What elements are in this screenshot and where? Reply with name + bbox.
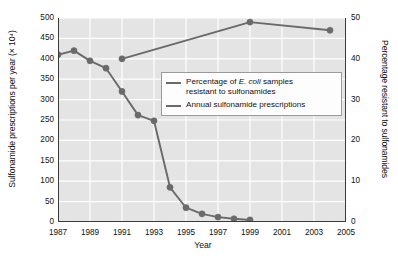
- chart-legend: Percentage of E. coli samples resistant …: [161, 72, 342, 116]
- data-point-marker: [151, 118, 157, 124]
- legend-label-resistance-pre: Percentage of: [186, 77, 239, 86]
- y-axis-right-tick-label: 30: [351, 95, 381, 104]
- chart-container: Sulfonamide prescriptions per year (× 10…: [0, 0, 398, 261]
- y-axis-left-tick-label: 200: [24, 135, 54, 144]
- plot-area: [58, 18, 346, 222]
- data-point-marker: [119, 56, 125, 62]
- y-axis-left-tick-label: 50: [24, 197, 54, 206]
- legend-label-resistance-italic: E. coli: [239, 77, 261, 86]
- y-axis-left-tick-label: 100: [24, 176, 54, 185]
- data-point-marker: [247, 19, 253, 25]
- legend-label-resistance-line2: resistant to sulfonamides: [186, 87, 276, 96]
- y-axis-left-tick-label: 350: [24, 74, 54, 83]
- data-point-marker: [119, 88, 125, 94]
- legend-item-resistance: Percentage of E. coli samples resistant …: [166, 77, 336, 97]
- y-axis-right-tick-label: 40: [351, 54, 381, 63]
- y-axis-right-title: Percentage resistant to sulfonamides: [380, 9, 390, 209]
- y-axis-left-tick-label: 500: [24, 13, 54, 22]
- y-axis-left-tick-label: 400: [24, 54, 54, 63]
- data-point-marker: [183, 205, 189, 211]
- legend-label-prescriptions: Annual sulfonamide prescriptions: [186, 100, 305, 110]
- legend-label-resistance-post: samples: [261, 77, 293, 86]
- y-axis-left-tick-label: 150: [24, 156, 54, 165]
- y-axis-left-tick-label: 450: [24, 33, 54, 42]
- data-point-marker: [215, 214, 221, 220]
- data-point-marker: [71, 48, 77, 54]
- data-point-marker: [231, 216, 237, 222]
- legend-line-icon-prescriptions: [166, 105, 181, 107]
- x-axis-tick-label: 2005: [326, 228, 366, 237]
- y-axis-right-tick-label: 10: [351, 176, 381, 185]
- data-point-marker: [135, 112, 141, 118]
- series-line-resistance: [122, 22, 330, 59]
- y-axis-left-tick-label: 250: [24, 115, 54, 124]
- y-axis-right-tick-label: 50: [351, 13, 381, 22]
- y-axis-left-tick-label: 0: [24, 217, 54, 226]
- legend-label-resistance: Percentage of E. coli samples resistant …: [186, 77, 293, 97]
- y-axis-left-title: Sulfonamide prescriptions per year (× 10…: [7, 9, 17, 209]
- x-axis-title: Year: [58, 240, 348, 250]
- legend-item-prescriptions: Annual sulfonamide prescriptions: [166, 100, 336, 110]
- data-point-marker: [199, 211, 205, 217]
- y-axis-left-tick-label: 300: [24, 95, 54, 104]
- y-axis-right-tick-label: 0: [351, 217, 381, 226]
- y-axis-right-tick-label: 20: [351, 135, 381, 144]
- data-point-marker: [327, 27, 333, 33]
- data-point-marker: [87, 58, 93, 64]
- plot-svg: [58, 18, 346, 222]
- data-point-marker: [167, 184, 173, 190]
- legend-line-icon-resistance: [166, 82, 181, 84]
- data-point-marker: [103, 65, 109, 71]
